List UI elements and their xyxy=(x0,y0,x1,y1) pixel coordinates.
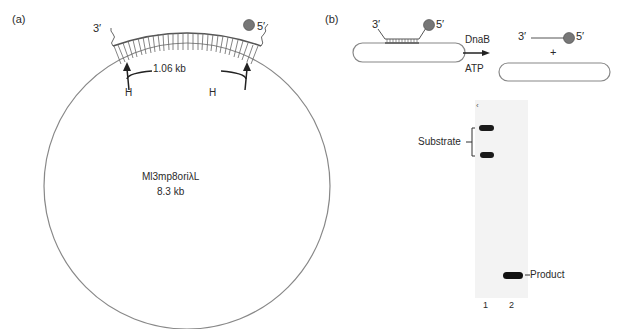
lane-2-label: 2 xyxy=(509,300,514,310)
band-substrate-upper xyxy=(479,125,494,131)
plasmid-name: Ml3mp8oriλL xyxy=(142,171,199,182)
panel-a-label: (a) xyxy=(12,13,25,25)
hybrid-hatching xyxy=(114,33,258,64)
cofactor-label: ATP xyxy=(465,63,484,74)
label-sphere-a xyxy=(244,20,255,31)
enzyme-label: DnaB xyxy=(465,34,490,45)
plasmid-circle xyxy=(44,43,330,329)
band-product xyxy=(503,272,523,279)
product-five-prime: 5′ xyxy=(576,30,584,42)
plasmid-size: 8.3 kb xyxy=(157,186,184,197)
substrate-label: Substrate xyxy=(418,136,461,147)
product-three-prime: 3′ xyxy=(518,30,526,42)
plus-sign: + xyxy=(550,46,556,58)
span-label: 1.06 kb xyxy=(153,63,186,74)
band-substrate-lower xyxy=(480,152,494,158)
panel-b-label: (b) xyxy=(325,13,338,25)
span-arrow xyxy=(127,71,246,79)
substrate-circle-shape xyxy=(353,43,465,62)
site-h-right: H xyxy=(209,87,216,98)
five-prime-label-a: 5′ xyxy=(257,20,265,32)
svg-text:‹: ‹ xyxy=(476,101,479,110)
five-prime-label-b: 5′ xyxy=(436,18,444,30)
oligo-arc xyxy=(113,33,261,46)
site-h-left: H xyxy=(125,87,132,98)
three-prime-label-b: 3′ xyxy=(372,18,380,30)
lane-1-label: 1 xyxy=(483,300,488,310)
tail-3prime xyxy=(111,28,115,46)
product-label: Product xyxy=(530,269,564,280)
three-prime-label-a: 3′ xyxy=(93,22,101,34)
